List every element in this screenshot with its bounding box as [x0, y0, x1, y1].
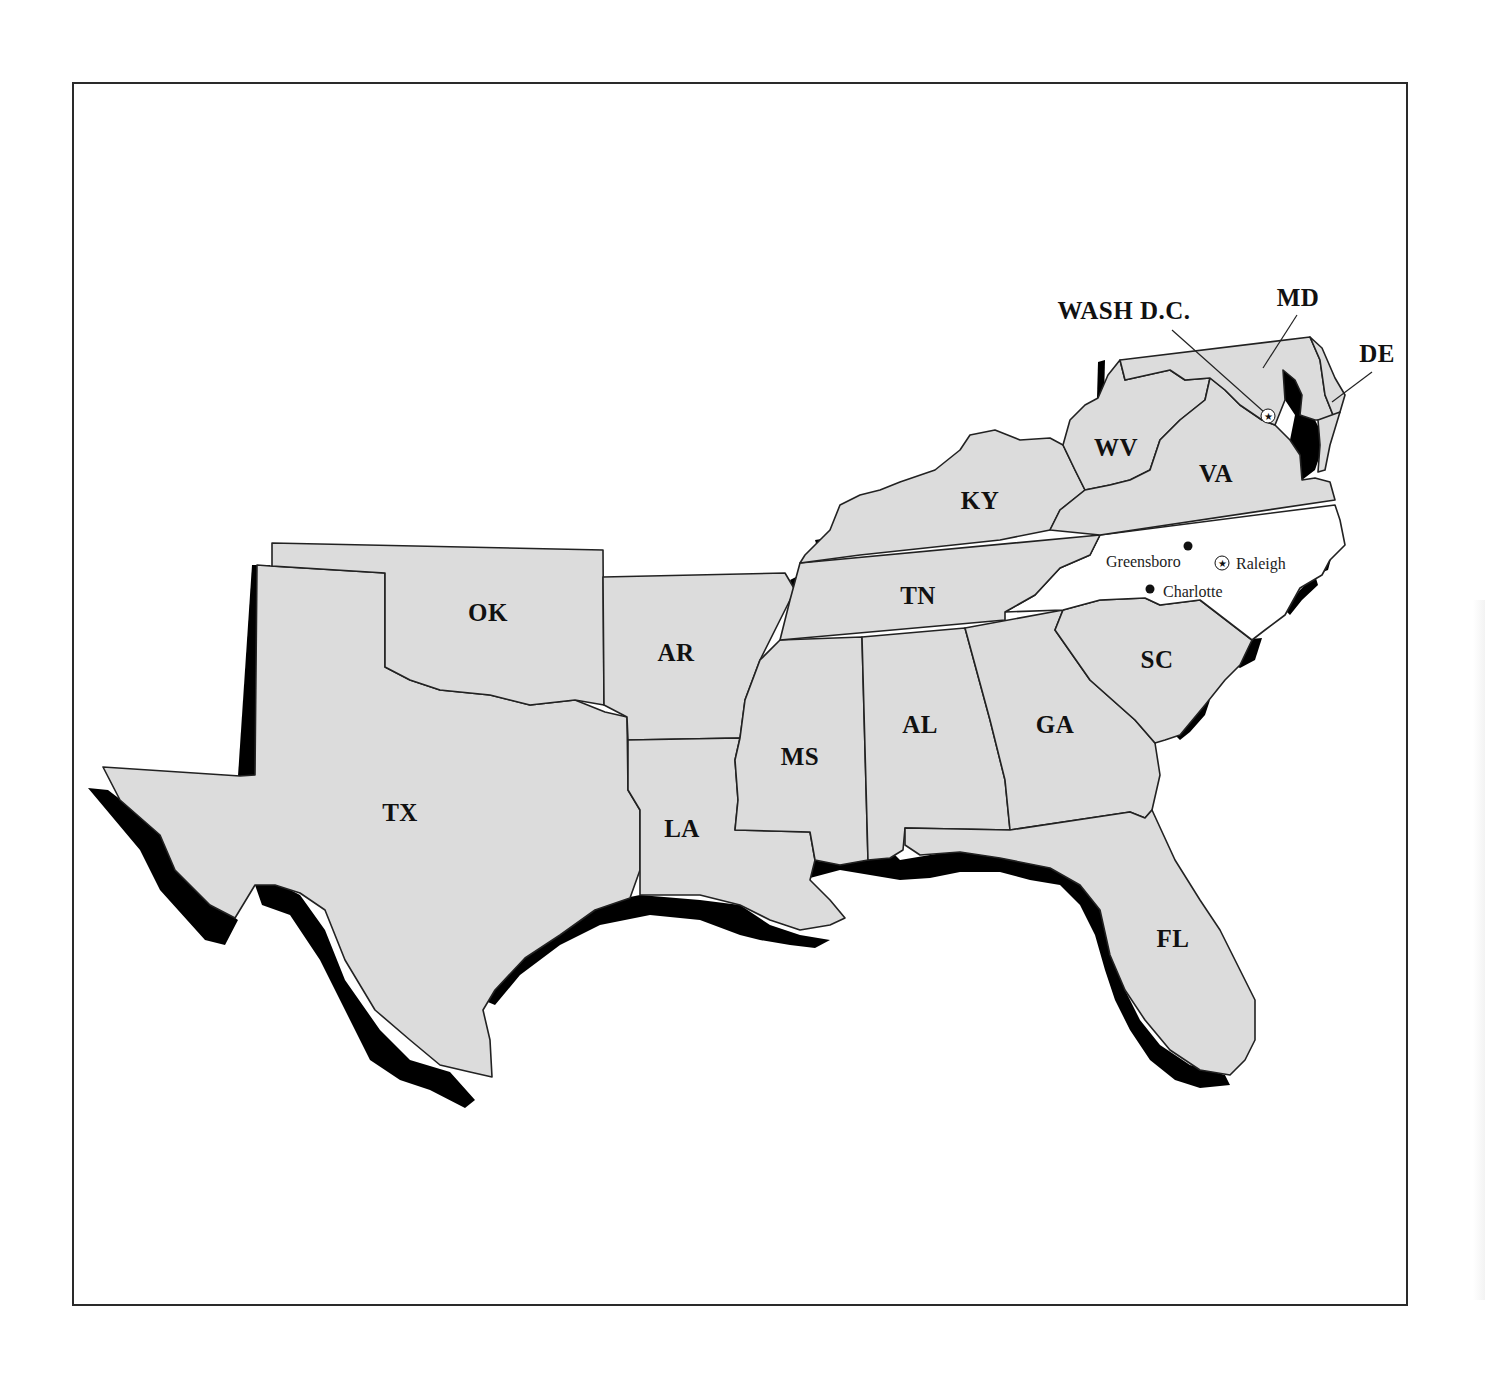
label-wv: WV — [1094, 434, 1138, 462]
city-label-raleigh: Raleigh — [1236, 555, 1286, 573]
capital-star-icon-dc: ★ — [1261, 409, 1276, 424]
label-ga: GA — [1036, 711, 1075, 739]
city-dot-icon-greensboro — [1184, 542, 1193, 551]
label-washington-dc: WASH D.C. — [1058, 297, 1191, 325]
label-fl: FL — [1157, 925, 1190, 953]
label-la: LA — [664, 815, 700, 843]
city-label-charlotte: Charlotte — [1163, 583, 1223, 601]
state-fl — [905, 810, 1255, 1075]
state-va-eastern-shore — [1318, 412, 1340, 472]
label-ok: OK — [468, 599, 508, 627]
label-sc: SC — [1141, 646, 1174, 674]
label-ms: MS — [781, 743, 820, 771]
label-tn: TN — [900, 582, 936, 610]
states — [103, 337, 1345, 1077]
label-de: DE — [1359, 340, 1395, 368]
capital-star-icon-raleigh: ★ — [1215, 556, 1230, 571]
label-va: VA — [1199, 460, 1233, 488]
city-dot-icon-charlotte — [1146, 585, 1155, 594]
label-ar: AR — [657, 639, 694, 667]
label-ky: KY — [961, 487, 1000, 515]
label-al: AL — [902, 711, 938, 739]
city-label-greensboro: Greensboro — [1106, 553, 1181, 571]
southeast-us-map — [0, 0, 1485, 1381]
label-tx: TX — [382, 799, 418, 827]
page-edge-shadow — [1473, 600, 1485, 1300]
label-md: MD — [1277, 284, 1320, 312]
